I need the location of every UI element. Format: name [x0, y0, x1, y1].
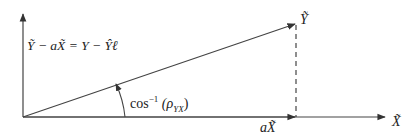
projection-label: aX̃: [260, 121, 276, 135]
diagram-canvas: Ỹ − aX̃ = Y − Ŷℓ Ỹ X̃ aX̃ cos−1 (ρYX): [0, 0, 418, 140]
angle-func: cos: [130, 96, 149, 111]
angle-arg-sub: YX: [173, 104, 184, 114]
angle-label: cos−1 (ρYX): [130, 95, 188, 114]
diagram-lines: [0, 0, 418, 140]
angle-arc: [116, 84, 125, 117]
angle-exponent: −1: [149, 94, 159, 104]
angle-arg-close: ): [184, 96, 189, 111]
angle-arg-open: (ρ: [162, 96, 173, 111]
y-vector-label: Ỹ: [300, 13, 308, 27]
residual-formula-label: Ỹ − aX̃ = Y − Ŷℓ: [27, 39, 118, 53]
x-axis-label: X̃: [392, 115, 401, 129]
